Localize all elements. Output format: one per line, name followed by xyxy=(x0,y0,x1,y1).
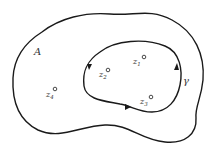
diagram-svg: A γ z1 z2 z3 z4 xyxy=(0,0,222,152)
point-z3-marker xyxy=(149,95,153,99)
arrow-left-down-icon xyxy=(87,64,92,70)
region-a-boundary xyxy=(13,13,203,142)
contour-gamma-label: γ xyxy=(183,75,189,86)
point-z1-marker xyxy=(142,55,146,59)
point-z2-marker xyxy=(106,68,110,72)
point-z3-label: z3 xyxy=(139,97,148,107)
region-a-label: A xyxy=(33,46,41,57)
arrow-bottom-right-icon xyxy=(125,104,131,110)
diagram-canvas: A γ z1 z2 z3 z4 xyxy=(0,0,222,152)
point-z2-label: z2 xyxy=(98,70,107,80)
point-z4-label: z4 xyxy=(45,90,54,100)
point-z1-label: z1 xyxy=(132,57,141,67)
point-z4-marker xyxy=(53,87,57,91)
arrow-right-up-icon xyxy=(174,63,179,70)
